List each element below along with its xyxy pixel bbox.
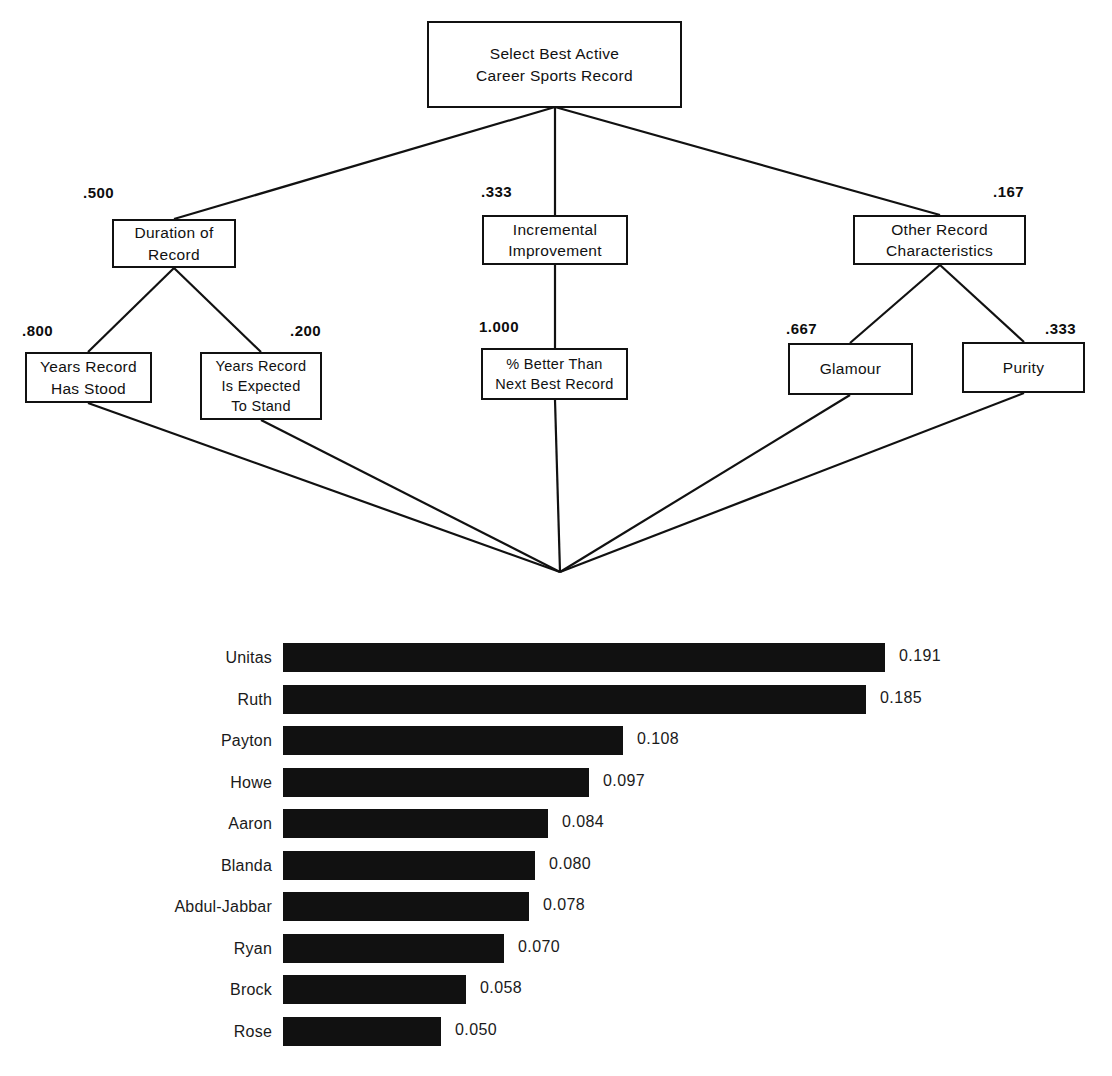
node-goal[interactable]: Select Best Active Career Sports Record: [427, 21, 682, 108]
weight-incremental-improvement: .333: [481, 183, 512, 200]
node-years-record-is-expected-to-stand-label: Years Record Is Expected To Stand: [212, 356, 311, 416]
node-percent-better-than-next-best-record[interactable]: % Better Than Next Best Record: [481, 348, 628, 400]
bar-row: Rose0.050: [0, 1012, 1112, 1052]
bar-category-label: Abdul-Jabbar: [0, 898, 272, 916]
bar-chart: Unitas0.191Ruth0.185Payton0.108Howe0.097…: [0, 618, 1112, 1076]
bar: [283, 685, 866, 714]
node-incremental-improvement[interactable]: Incremental Improvement: [482, 215, 628, 265]
bar-category-label: Payton: [0, 732, 272, 750]
bar-row: Brock0.058: [0, 970, 1112, 1010]
bar-value-label: 0.108: [637, 730, 679, 748]
node-incremental-improvement-label: Incremental Improvement: [504, 219, 606, 262]
bar: [283, 892, 529, 921]
bar-value-label: 0.084: [562, 813, 604, 831]
bar-row: Ryan0.070: [0, 929, 1112, 969]
node-percent-better-than-next-best-record-label: % Better Than Next Best Record: [491, 354, 617, 394]
edge-duration-expected: [174, 268, 261, 352]
bar-value-label: 0.058: [480, 979, 522, 997]
bar: [283, 643, 885, 672]
bar-row: Blanda0.080: [0, 846, 1112, 886]
bar-row: Howe0.097: [0, 763, 1112, 803]
edge-percent-alternatives: [555, 400, 560, 572]
node-goal-label: Select Best Active Career Sports Record: [472, 43, 637, 86]
figure-root: Select Best Active Career Sports Record …: [0, 0, 1112, 1076]
bar-value-label: 0.078: [543, 896, 585, 914]
edge-goal-other: [555, 107, 940, 215]
bar-value-label: 0.185: [880, 689, 922, 707]
node-duration-of-record-label: Duration of Record: [130, 222, 217, 265]
weight-other-record-characteristics: .167: [993, 183, 1024, 200]
node-years-record-has-stood[interactable]: Years Record Has Stood: [25, 352, 152, 403]
bar-value-label: 0.097: [603, 772, 645, 790]
bar-row: Aaron0.084: [0, 804, 1112, 844]
bar-row: Ruth0.185: [0, 680, 1112, 720]
node-glamour-label: Glamour: [816, 358, 886, 379]
weight-glamour: .667: [786, 320, 817, 337]
bar-row: Unitas0.191: [0, 638, 1112, 678]
bar-row: Payton0.108: [0, 721, 1112, 761]
edge-stood-alternatives: [88, 403, 560, 572]
bar-value-label: 0.070: [518, 938, 560, 956]
weight-years-record-is-expected-to-stand: .200: [290, 322, 321, 339]
bar-category-label: Ryan: [0, 940, 272, 958]
bar-category-label: Unitas: [0, 649, 272, 667]
node-other-record-characteristics[interactable]: Other Record Characteristics: [853, 215, 1026, 265]
node-other-record-characteristics-label: Other Record Characteristics: [882, 219, 997, 262]
edge-duration-stood: [88, 268, 174, 352]
node-duration-of-record[interactable]: Duration of Record: [112, 219, 236, 268]
weight-purity: .333: [1045, 320, 1076, 337]
bar-category-label: Brock: [0, 981, 272, 999]
bar-row: Abdul-Jabbar0.078: [0, 887, 1112, 927]
bar-category-label: Aaron: [0, 815, 272, 833]
bar: [283, 726, 623, 755]
node-purity[interactable]: Purity: [962, 342, 1085, 393]
bar: [283, 851, 535, 880]
edge-other-purity: [940, 265, 1024, 342]
edge-other-glamour: [850, 265, 940, 343]
bar: [283, 809, 548, 838]
node-glamour[interactable]: Glamour: [788, 343, 913, 395]
bar-value-label: 0.191: [899, 647, 941, 665]
edge-glamour-alternatives: [560, 395, 850, 572]
edge-expected-alternatives: [261, 420, 560, 572]
weight-duration-of-record: .500: [83, 184, 114, 201]
edge-goal-duration: [174, 107, 555, 219]
bar-value-label: 0.050: [455, 1021, 497, 1039]
node-years-record-has-stood-label: Years Record Has Stood: [36, 356, 141, 399]
edge-purity-alternatives: [560, 393, 1024, 572]
bar: [283, 934, 504, 963]
node-years-record-is-expected-to-stand[interactable]: Years Record Is Expected To Stand: [200, 352, 322, 420]
bar-value-label: 0.080: [549, 855, 591, 873]
bar-category-label: Blanda: [0, 857, 272, 875]
weight-years-record-has-stood: .800: [22, 322, 53, 339]
bar-category-label: Ruth: [0, 691, 272, 709]
node-purity-label: Purity: [999, 357, 1048, 378]
bar-category-label: Howe: [0, 774, 272, 792]
bar: [283, 1017, 441, 1046]
bar: [283, 975, 466, 1004]
bar-category-label: Rose: [0, 1023, 272, 1041]
bar: [283, 768, 589, 797]
weight-percent-better-than-next-best-record: 1.000: [479, 318, 519, 335]
